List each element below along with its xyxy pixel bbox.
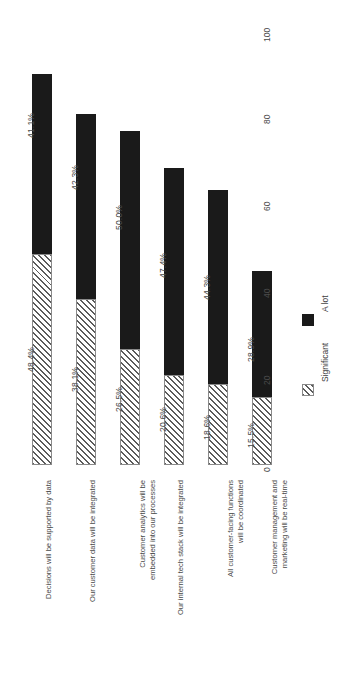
legend-label: Significant [320,343,330,382]
axis-tick-label: 20 [262,376,272,385]
bar-segment-a-lot[interactable] [32,74,52,254]
category-label: Customer analytics will be embedded into… [138,480,158,640]
value-label-a-lot: 44.3% [202,275,212,300]
value-label-a-lot: 42.3% [70,165,80,190]
bar-group[interactable] [120,131,140,465]
value-label-a-lot: 50.0% [114,205,124,230]
axis-tick-label: 80 [262,115,272,124]
value-label-significant: 26.5% [114,387,124,412]
category-label: Our customer data will be integrated [88,480,98,640]
axis-tick-label: 0 [262,467,272,472]
axis-tick-label: 60 [262,202,272,211]
value-label-significant: 18.6% [202,415,212,440]
stacked-bar-chart: 41.1% 48.4% Decisions will be supported … [0,0,342,673]
solid-black-swatch-icon [302,314,314,326]
value-label-significant: 15.5% [246,423,256,448]
category-label: Decisions will be supported by data [44,480,54,640]
value-label-a-lot: 47.4% [158,253,168,278]
category-label: All customer-facing functions will be co… [226,480,246,640]
legend-item-significant[interactable]: Significant [296,340,342,430]
plot-area: 41.1% 48.4% Decisions will be supported … [0,0,270,673]
value-label-a-lot: 41.1% [26,113,36,138]
hatched-swatch-icon [302,384,314,396]
value-label-significant: 38.1% [70,367,80,392]
bar-segment-a-lot[interactable] [120,131,140,350]
value-label-a-lot: 28.9% [246,337,256,362]
value-axis: 0 20 40 60 80 100 [262,0,288,673]
axis-tick-label: 100 [262,28,272,42]
value-label-significant: 20.6% [158,407,168,432]
chart-legend: A lot Significant [296,0,342,673]
value-label-significant: 48.4% [26,347,36,372]
legend-label: A lot [320,295,330,312]
axis-tick-label: 40 [262,289,272,298]
bar-segment-a-lot[interactable] [76,114,96,299]
category-label: Our internal tech stack will be integrat… [176,480,186,640]
